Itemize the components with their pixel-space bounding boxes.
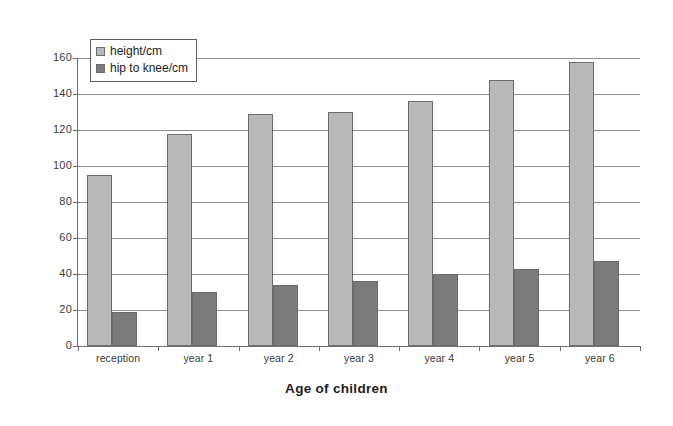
- x-tick-label: year 1: [158, 352, 238, 364]
- x-tick-label: year 5: [479, 352, 559, 364]
- y-tick-label: 140: [26, 88, 72, 99]
- chart-legend: height/cm hip to knee/cm: [90, 39, 197, 82]
- x-axis-title: Age of children: [0, 381, 673, 396]
- legend-label-height: height/cm: [110, 45, 162, 58]
- legend-swatch-height-icon: [96, 47, 105, 56]
- y-tick-label: 80: [26, 196, 72, 207]
- bar-group: [167, 58, 217, 346]
- bar-group: [248, 58, 298, 346]
- bar-height: [328, 112, 353, 346]
- x-tick-mark: [560, 346, 561, 351]
- bar-hip-to-knee: [273, 285, 298, 346]
- y-tick-label: 0: [26, 340, 72, 351]
- bar-hip-to-knee: [112, 312, 137, 346]
- x-tick-label: reception: [78, 352, 158, 364]
- bar-height: [248, 114, 273, 346]
- bar-hip-to-knee: [192, 292, 217, 346]
- x-tick-label: year 2: [239, 352, 319, 364]
- bar-group: [87, 58, 137, 346]
- gridline: [78, 346, 640, 347]
- plot-area: [78, 58, 640, 346]
- y-axis-labels: 020406080100120140160: [0, 0, 72, 426]
- x-tick-mark: [158, 346, 159, 351]
- y-tick-mark: [73, 58, 79, 59]
- bar-chart: 020406080100120140160 receptionyear 1yea…: [0, 0, 673, 426]
- x-tick-mark: [239, 346, 240, 351]
- y-tick-label: 60: [26, 232, 72, 243]
- bar-hip-to-knee: [433, 274, 458, 346]
- y-tick-mark: [73, 274, 79, 275]
- x-tick-mark: [479, 346, 480, 351]
- legend-item-hip-to-knee: hip to knee/cm: [96, 60, 188, 77]
- y-tick-label: 120: [26, 124, 72, 135]
- bar-height: [569, 62, 594, 346]
- x-tick-mark: [640, 346, 641, 351]
- bar-hip-to-knee: [353, 281, 378, 346]
- y-tick-mark: [73, 202, 79, 203]
- x-tick-mark: [399, 346, 400, 351]
- legend-item-height: height/cm: [96, 43, 188, 60]
- bar-height: [87, 175, 112, 346]
- x-tick-label: year 6: [560, 352, 640, 364]
- x-tick-label: year 3: [319, 352, 399, 364]
- bar-group: [489, 58, 539, 346]
- bar-group: [328, 58, 378, 346]
- bar-height: [408, 101, 433, 346]
- x-tick-mark: [78, 346, 79, 351]
- y-tick-mark: [73, 238, 79, 239]
- y-tick-mark: [73, 310, 79, 311]
- y-tick-label: 40: [26, 268, 72, 279]
- y-tick-label: 100: [26, 160, 72, 171]
- y-tick-mark: [73, 94, 79, 95]
- bar-group: [569, 58, 619, 346]
- bar-hip-to-knee: [514, 269, 539, 346]
- bar-group: [408, 58, 458, 346]
- x-axis-labels: receptionyear 1year 2year 3year 4year 5y…: [78, 352, 640, 372]
- legend-swatch-hip-to-knee-icon: [96, 64, 105, 73]
- legend-label-hip-to-knee: hip to knee/cm: [110, 62, 188, 75]
- y-tick-label: 20: [26, 304, 72, 315]
- bar-height: [167, 134, 192, 346]
- y-tick-mark: [73, 166, 79, 167]
- y-tick-mark: [73, 130, 79, 131]
- x-tick-label: year 4: [399, 352, 479, 364]
- x-tick-mark: [319, 346, 320, 351]
- bar-hip-to-knee: [594, 261, 619, 346]
- bar-height: [489, 80, 514, 346]
- y-tick-label: 160: [26, 52, 72, 63]
